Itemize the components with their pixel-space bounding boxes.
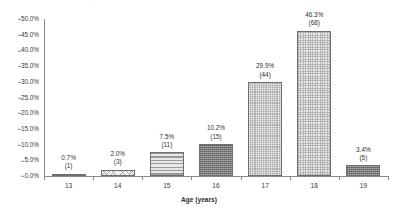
x-axis-category-label: 16 [212,183,219,190]
bar-slot: 0.7%(1) [44,19,93,176]
bar-percent-label: 3.4% [356,146,371,154]
bar-value-label: 29.9%(44) [256,62,274,79]
y-axis-tick-label: 35.0% [21,63,44,69]
y-axis-tick-label: 40.0% [21,47,44,53]
bar[interactable] [150,152,184,176]
x-axis-category-label: 15 [163,183,170,190]
x-axis-tick-mark [44,176,45,180]
bar-value-label: 2.0%(3) [110,150,125,167]
bar[interactable] [199,144,233,176]
y-axis-tick-mark [18,129,21,130]
bar[interactable] [297,31,331,176]
x-axis-tick-mark [339,176,340,180]
plot-area: 0.0%5.0%10.0%15.0%20.0%25.0%30.0%35.0%40… [44,19,388,176]
y-axis-tick-label: 25.0% [21,94,44,100]
x-axis-tick-mark [191,176,192,180]
bar-count-label: (5) [356,154,371,162]
bar-value-label: 46.3%(68) [305,11,323,28]
x-axis-category-label: 13 [65,183,72,190]
y-axis-tick-label: 10.0% [21,141,44,147]
bar-percent-label: 29.9% [256,62,274,70]
bar-count-label: (3) [110,158,125,166]
bar-count-label: (68) [305,19,323,27]
bar-slot: 29.9%(44) [241,19,290,176]
y-axis-tick-mark [18,145,21,146]
bar-value-label: 0.7%(1) [61,154,76,171]
bar-percent-label: 0.7% [61,154,76,162]
y-axis-tick-label: 5.0% [24,157,44,163]
bar-chart: o o a p 0.0%5.0%10.0%15.0%20.0%25.0%30.0… [0,0,398,212]
x-axis-category-label: 19 [360,183,367,190]
y-axis-tick-label: 20.0% [21,110,44,116]
x-axis-tick-mark [388,176,389,180]
bar-slot: 7.5%(11) [142,19,191,176]
x-axis-line [44,176,388,177]
bar-value-label: 10.2%(15) [207,124,225,141]
y-axis-tick-label: 50.0% [21,16,44,22]
bar-count-label: (44) [256,71,274,79]
x-axis-title: Age (years) [0,196,398,203]
y-axis-tick-mark [18,98,21,99]
bar-slot: 3.4%(5) [339,19,388,176]
bar[interactable] [101,170,135,176]
x-axis-tick-mark [241,176,242,180]
bar-series: 0.7%(1)2.0%(3)7.5%(11)10.2%(15)29.9%(44)… [44,19,388,176]
y-axis-tick-label: 30.0% [21,79,44,85]
x-axis-category-label: 17 [261,183,268,190]
y-axis-tick-mark [18,19,21,20]
y-axis-tick-label: 15.0% [21,126,44,132]
x-axis-tick-mark [290,176,291,180]
bar-percent-label: 7.5% [160,133,175,141]
x-axis-category-label: 18 [311,183,318,190]
y-axis-tick-mark [18,82,21,83]
y-axis-tick-label: 45.0% [21,31,44,37]
y-axis-tick-mark [18,66,21,67]
y-axis-tick-mark [21,176,24,177]
y-axis-tick-mark [18,113,21,114]
bar[interactable] [346,165,380,176]
y-axis-tick-mark [18,50,21,51]
bar-value-label: 7.5%(11) [160,133,175,150]
bar-slot: 46.3%(68) [290,19,339,176]
bar-slot: 2.0%(3) [93,19,142,176]
x-axis-tick-mark [142,176,143,180]
cutoff-caption-strip: o o a p [0,0,398,8]
bar-value-label: 3.4%(5) [356,146,371,163]
y-axis-tick-mark [18,35,21,36]
bar-percent-label: 46.3% [305,11,323,19]
bar[interactable] [52,174,86,176]
bar-percent-label: 2.0% [110,150,125,158]
bar-slot: 10.2%(15) [191,19,240,176]
bar-count-label: (11) [160,141,175,149]
x-axis-tick-mark [93,176,94,180]
y-axis-tick-mark [21,160,24,161]
bar-percent-label: 10.2% [207,124,225,132]
bar[interactable] [248,82,282,176]
x-axis-category-label: 14 [114,183,121,190]
bar-count-label: (1) [61,162,76,170]
y-axis-tick-label: 0.0% [24,173,44,179]
bar-count-label: (15) [207,133,225,141]
